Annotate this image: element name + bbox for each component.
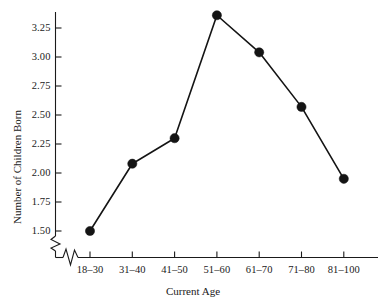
data-point-marker bbox=[339, 174, 348, 183]
chart-canvas bbox=[0, 0, 386, 307]
y-axis-tick-label: 2.75 bbox=[32, 81, 51, 92]
y-axis-break-icon bbox=[51, 236, 60, 251]
y-axis-tick-label: 2.25 bbox=[32, 139, 51, 150]
series-line-children-born bbox=[90, 15, 344, 231]
chart-figure: 1.501.752.002.252.502.753.003.25 18–3031… bbox=[0, 0, 386, 307]
y-axis-tick-label: 3.00 bbox=[32, 52, 51, 63]
axis-break-group bbox=[51, 236, 78, 265]
y-axis-tick-label: 2.00 bbox=[32, 168, 51, 179]
data-point-marker bbox=[212, 11, 221, 20]
x-axis-tick-label: 51–60 bbox=[204, 265, 231, 276]
data-point-marker bbox=[128, 159, 137, 168]
y-axis-title: Number of Children Born bbox=[12, 110, 23, 224]
x-axis-tick-label: 18–30 bbox=[77, 265, 104, 276]
x-axis-tick-label: 61–70 bbox=[246, 265, 273, 276]
x-axis-tick-label: 81–100 bbox=[328, 265, 360, 276]
y-axis-tick-label: 1.50 bbox=[32, 226, 51, 237]
axes-group bbox=[56, 12, 379, 258]
data-point-marker bbox=[255, 48, 264, 57]
data-point-marker bbox=[170, 134, 179, 143]
x-axis-tick-label: 41–50 bbox=[161, 265, 188, 276]
y-axis-tick-label: 3.25 bbox=[32, 23, 51, 34]
x-axis-title: Current Age bbox=[0, 286, 386, 297]
x-axis-tick-label: 71–80 bbox=[288, 265, 315, 276]
data-point-marker bbox=[297, 102, 306, 111]
ticks-group bbox=[56, 28, 344, 258]
y-axis-tick-label: 1.75 bbox=[32, 197, 51, 208]
data-point-marker bbox=[85, 226, 94, 235]
x-axis-tick-label: 31–40 bbox=[119, 265, 146, 276]
cropped-caption-fragment bbox=[0, 303, 386, 307]
y-axis-tick-label: 2.50 bbox=[32, 110, 51, 121]
series-markers-group bbox=[85, 11, 348, 236]
